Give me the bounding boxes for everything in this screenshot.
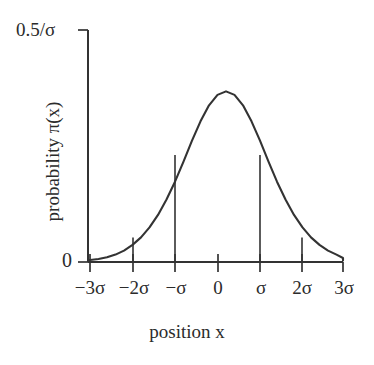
y-axis-zero-label: 0 (62, 250, 72, 270)
y-axis-max-label: 0.5/σ (16, 20, 55, 39)
x-tick-label-plus3sigma: 3σ (318, 278, 370, 297)
x-axis-title: position x (0, 322, 374, 341)
x-tick-label-zero: 0 (198, 278, 238, 297)
y-axis-title: probability π(x) (43, 62, 62, 262)
x-tick-label-minus1sigma: −σ (150, 278, 202, 297)
x-tick-label-plus1sigma: σ (242, 278, 280, 297)
gaussian-distribution-figure: 0.5/σ 0 probability π(x) −3σ −2σ −σ 0 σ … (0, 0, 374, 365)
gaussian-curve (88, 91, 343, 260)
